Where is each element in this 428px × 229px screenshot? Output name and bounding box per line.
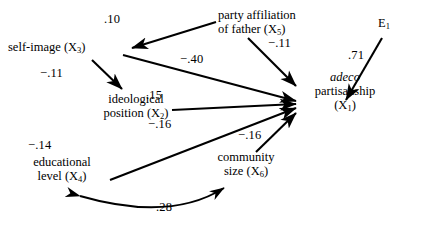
node-error-term-e1: E1 bbox=[378, 16, 404, 32]
subscript-6: 6 bbox=[260, 169, 264, 179]
coefficient-x4-correlation-x6: .28 bbox=[156, 200, 172, 214]
node-educational-line2: level (X4) bbox=[10, 169, 114, 185]
arrow-x3-to-x2 bbox=[92, 60, 122, 89]
node-adeco-line3: (X1) bbox=[292, 98, 398, 114]
coefficient-x5-to-x3: .10 bbox=[104, 12, 120, 26]
node-adeco-line1: adeco bbox=[292, 70, 398, 84]
coefficient-x5-to-x1: −.11 bbox=[268, 36, 291, 50]
coefficient-x2-to-x1: .15 bbox=[146, 88, 162, 102]
node-educational-line1: educational bbox=[10, 155, 114, 169]
arrow-x6-to-x1 bbox=[256, 113, 296, 152]
node-ideological-line2: position (X2) bbox=[78, 106, 194, 122]
coefficient-x4-label: −.14 bbox=[28, 138, 51, 152]
node-self-image: self-image (X3) bbox=[8, 40, 126, 56]
coefficient-x3-to-x1: −.40 bbox=[180, 52, 203, 66]
path-diagram: self-image (X3) party affiliation of fat… bbox=[0, 0, 428, 229]
node-self-image-label: self-image (X3) bbox=[8, 40, 126, 56]
subscript-4: 4 bbox=[78, 174, 82, 184]
node-party-affiliation-of-father: party affiliation of father (X5) bbox=[218, 8, 342, 38]
path-arrows-layer bbox=[0, 0, 428, 229]
arrow-x4-correlation-x6 bbox=[80, 188, 224, 207]
node-community-line1: community bbox=[200, 150, 292, 164]
node-ideological-line1: ideological bbox=[78, 92, 194, 106]
subscript-e1: 1 bbox=[386, 21, 390, 31]
node-community-line2: size (X6) bbox=[200, 164, 292, 180]
node-party-affiliation-line1: party affiliation bbox=[218, 8, 342, 22]
arrow-x5-to-x3 bbox=[132, 22, 216, 48]
node-adeco-line2: partisanship bbox=[292, 84, 398, 98]
coefficient-e1-to-x1: .71 bbox=[348, 48, 364, 62]
node-community-size: community size (X6) bbox=[200, 150, 292, 180]
coefficient-x4-to-x1: −.16 bbox=[148, 117, 171, 131]
subscript-1: 1 bbox=[347, 103, 351, 113]
node-educational-level: educational level (X4) bbox=[10, 155, 114, 185]
coefficient-x3-to-x2: −.11 bbox=[40, 66, 63, 80]
node-ideological-position: ideological position (X2) bbox=[78, 92, 194, 122]
subscript-3: 3 bbox=[77, 45, 81, 55]
coefficient-x6-to-x1: −.16 bbox=[238, 128, 261, 142]
node-adeco-partisanship: adeco partisanship (X1) bbox=[292, 70, 398, 114]
